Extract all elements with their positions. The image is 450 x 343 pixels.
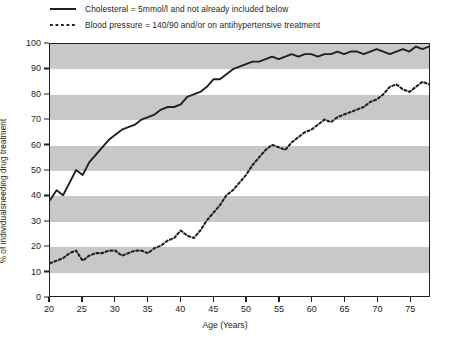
y-tick-mark [44, 93, 49, 94]
y-tick-label: 30 [21, 216, 41, 225]
y-tick: 30 [21, 216, 49, 225]
x-tick-label: 40 [175, 304, 185, 314]
x-tick-mark [311, 297, 312, 302]
y-tick: 100 [21, 39, 49, 48]
y-tick: 20 [21, 242, 49, 251]
x-tick-label: 60 [307, 304, 317, 314]
x-tick-mark [81, 297, 82, 302]
y-tick-label: 100 [21, 39, 41, 48]
chart-figure: Cholesteral = 5mmol/l and not already in… [0, 0, 450, 343]
y-tick-label: 50 [21, 166, 41, 175]
y-tick-label: 40 [21, 191, 41, 200]
x-tick: 30 [110, 297, 120, 314]
y-tick: 90 [21, 64, 49, 73]
x-tick-label: 65 [340, 304, 350, 314]
y-tick-label: 70 [21, 115, 41, 124]
y-tick-mark [44, 42, 49, 43]
x-tick-mark [410, 297, 411, 302]
x-tick: 75 [405, 297, 415, 314]
x-tick: 50 [241, 297, 251, 314]
x-tick-label: 55 [274, 304, 284, 314]
x-tick-label: 20 [44, 304, 54, 314]
x-tick: 40 [175, 297, 185, 314]
x-tick: 45 [208, 297, 218, 314]
y-tick-label: 60 [21, 140, 41, 149]
y-tick-mark [44, 246, 49, 247]
x-tick-mark [344, 297, 345, 302]
x-tick-label: 45 [208, 304, 218, 314]
x-tick: 60 [307, 297, 317, 314]
x-tick-label: 75 [405, 304, 415, 314]
y-tick-mark [44, 169, 49, 170]
x-tick-label: 50 [241, 304, 251, 314]
y-tick-label: 0 [21, 293, 41, 302]
y-tick: 80 [21, 89, 49, 98]
y-tick-mark [44, 271, 49, 272]
legend-solid-line-icon [50, 3, 76, 15]
x-tick-mark [377, 297, 378, 302]
y-tick-mark [44, 119, 49, 120]
x-axis-title: Age (Years) [0, 320, 450, 330]
legend-item-cholesterol: Cholesteral = 5mmol/l and not already in… [50, 2, 440, 16]
x-tick: 20 [44, 297, 54, 314]
y-tick-label: 10 [21, 267, 41, 276]
plot-area: 0102030405060708090100 20253035404550556… [49, 43, 430, 297]
y-tick: 10 [21, 267, 49, 276]
x-tick-mark [213, 297, 214, 302]
y-tick-label: 20 [21, 242, 41, 251]
x-tick: 55 [274, 297, 284, 314]
legend-label-blood-pressure: Blood pressure = 140/90 and/or on antihy… [85, 20, 320, 30]
y-tick-mark [44, 68, 49, 69]
x-tick-mark [48, 297, 49, 302]
x-tick-mark [278, 297, 279, 302]
x-tick-mark [245, 297, 246, 302]
x-tick: 25 [77, 297, 87, 314]
legend-item-blood-pressure: Blood pressure = 140/90 and/or on antihy… [50, 18, 440, 32]
y-axis-title: % of individualsneeding drug treatment [0, 96, 8, 286]
y-tick-mark [44, 144, 49, 145]
x-tick-label: 30 [110, 304, 120, 314]
y-tick-mark [44, 195, 49, 196]
x-tick: 35 [143, 297, 153, 314]
y-tick: 60 [21, 140, 49, 149]
series-line-blood-pressure [50, 82, 429, 263]
x-tick-mark [147, 297, 148, 302]
x-tick: 65 [340, 297, 350, 314]
series-line-cholesterol [50, 47, 429, 201]
y-tick-label: 90 [21, 64, 41, 73]
y-tick-label: 80 [21, 89, 41, 98]
series-layer [50, 44, 429, 296]
y-tick: 70 [21, 115, 49, 124]
legend-dotted-line-icon [50, 19, 76, 31]
plot-frame [49, 43, 430, 297]
legend-label-cholesterol: Cholesteral = 5mmol/l and not already in… [85, 4, 288, 14]
y-tick-mark [44, 220, 49, 221]
x-tick-label: 25 [77, 304, 87, 314]
x-tick-mark [114, 297, 115, 302]
y-tick: 40 [21, 191, 49, 200]
x-tick-label: 70 [372, 304, 382, 314]
x-tick-mark [180, 297, 181, 302]
x-tick: 70 [372, 297, 382, 314]
chart-legend: Cholesteral = 5mmol/l and not already in… [50, 2, 440, 34]
x-tick-label: 35 [143, 304, 153, 314]
y-tick: 50 [21, 166, 49, 175]
